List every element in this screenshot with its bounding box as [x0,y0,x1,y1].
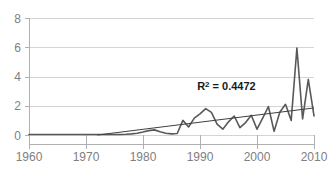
y-tick-label: 4 [14,70,21,84]
axis-ticks-group [25,19,315,149]
y-axis-tick-labels: 02468 [14,12,21,143]
annotation-r-squared: R2 = 0.4472 [197,80,256,93]
data-series-group [29,48,314,135]
x-tick-label: 1960 [16,150,43,164]
series-trendline [97,108,314,135]
r-squared-value: = 0.4472 [210,80,256,92]
y-tick-label: 0 [14,129,21,143]
y-tick-label: 6 [14,41,21,55]
x-tick-label: 1980 [130,150,157,164]
x-tick-label: 1990 [187,150,214,164]
chart-container: 02468 196019701980199020002010 R2 = 0.44… [0,0,331,173]
x-tick-label: 2010 [301,150,328,164]
x-axis-tick-labels: 196019701980199020002010 [16,150,328,164]
y-tick-label: 8 [14,12,21,26]
r-squared-base: R [197,80,205,92]
annotations-group: R2 = 0.4472 [197,80,256,93]
y-tick-label: 2 [14,99,21,113]
x-tick-label: 2000 [244,150,271,164]
series-data [29,48,314,135]
x-tick-label: 1970 [73,150,100,164]
line-chart: 02468 196019701980199020002010 R2 = 0.44… [0,0,331,173]
